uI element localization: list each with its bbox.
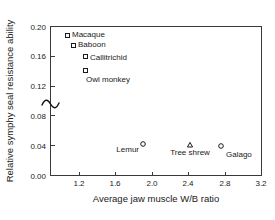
y-tick-label: 0.12 (30, 82, 46, 91)
data-point-marker-open-square (84, 55, 88, 59)
x-tick-label: 3.2 (255, 179, 267, 188)
data-point-marker-open-circle (141, 142, 146, 147)
data-points: Macaque Baboon Callitrichid Owl monkey L… (66, 30, 253, 159)
data-point-marker-open-triangle (187, 142, 192, 147)
x-tick-labels: 1.2 1.6 2.0 2.4 2.8 3.2 (73, 179, 267, 188)
data-point-label: Tree shrew (170, 148, 210, 157)
x-tick-label: 2.8 (219, 179, 231, 188)
y-axis-ticks (51, 27, 55, 176)
x-axis-title: Average jaw muscle W/B ratio (93, 193, 220, 204)
data-point-label: Macaque (72, 30, 105, 39)
y-tick-label: 0.20 (30, 23, 46, 32)
y-tick-label: 0.04 (30, 142, 46, 151)
x-tick-label: 2.4 (182, 179, 194, 188)
x-tick-label: 1.2 (73, 179, 85, 188)
x-tick-label: 1.6 (109, 179, 121, 188)
data-point-label: Lemur (116, 145, 139, 154)
y-tick-label: 0.00 (30, 172, 46, 181)
y-tick-label: 0.16 (30, 52, 46, 61)
data-point-marker-open-circle (219, 144, 224, 149)
data-point-label: Callitrichid (90, 53, 127, 62)
data-point-marker-open-square (72, 44, 76, 48)
data-point-label: Baboon (78, 40, 106, 49)
x-axis-ticks (79, 172, 261, 176)
x-tick-label: 2.0 (146, 179, 158, 188)
plot-svg: 1.2 1.6 2.0 2.4 2.8 3.2 0.00 0.04 0.08 0… (0, 0, 275, 220)
scatter-plot-figure: 1.2 1.6 2.0 2.4 2.8 3.2 0.00 0.04 0.08 0… (0, 0, 275, 220)
data-point-marker-open-square (84, 69, 88, 73)
data-point-label: Owl monkey (86, 75, 130, 84)
y-axis-title: Relative symphy seal resistance ability (4, 19, 15, 182)
y-tick-label: 0.08 (30, 112, 46, 121)
data-point-label: Galago (226, 150, 252, 159)
data-point-marker-open-square (66, 34, 70, 38)
